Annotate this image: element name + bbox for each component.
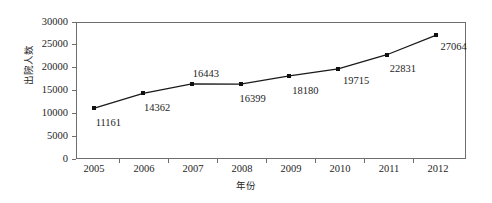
data-point-marker — [141, 91, 145, 95]
y-axis-tick-label: 25000 — [22, 39, 68, 49]
data-point-label: 18180 — [282, 85, 328, 96]
data-point-label: 11161 — [85, 117, 131, 128]
data-point-marker — [336, 67, 340, 71]
data-point-label: 14362 — [134, 102, 180, 113]
y-axis-tick-label: 30000 — [22, 17, 68, 27]
data-point-marker — [385, 53, 389, 57]
x-axis-tick-label: 2006 — [117, 163, 171, 174]
x-axis-title: 年份 — [0, 178, 492, 192]
x-axis-tick-label: 2010 — [313, 163, 367, 174]
x-axis-tick-label: 2012 — [411, 163, 465, 174]
x-axis-tick-label: 2008 — [215, 163, 269, 174]
data-point-marker — [92, 106, 96, 110]
y-axis-tick-label: 5000 — [22, 131, 68, 141]
y-axis-tick-mark — [72, 159, 76, 160]
y-axis-tick-label: 10000 — [22, 108, 68, 118]
y-axis-tick-label: 20000 — [22, 62, 68, 72]
data-point-label: 22831 — [380, 63, 426, 74]
line-chart: 出院人数 30000 25000 20000 15000 10000 5000 … — [0, 0, 492, 203]
y-axis-tick-label: 15000 — [22, 85, 68, 95]
x-axis-tick-label: 2009 — [264, 163, 318, 174]
data-point-marker — [434, 33, 438, 37]
data-point-marker — [190, 82, 194, 86]
data-point-marker — [239, 82, 243, 86]
x-axis-tick-label: 2007 — [166, 163, 220, 174]
y-axis-tick-label: 0 — [22, 154, 68, 164]
data-point-label: 16443 — [183, 68, 229, 79]
data-point-label: 16399 — [230, 93, 276, 104]
plot-area — [76, 22, 466, 159]
data-point-marker — [287, 74, 291, 78]
data-point-label: 19715 — [333, 75, 379, 86]
data-point-label: 27064 — [431, 41, 477, 52]
x-axis-tick-label: 2005 — [67, 163, 121, 174]
x-axis-tick-label: 2011 — [362, 163, 416, 174]
